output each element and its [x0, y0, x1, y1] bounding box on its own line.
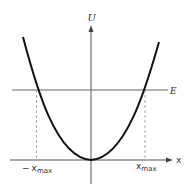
x-axis-arrow-icon	[166, 158, 173, 163]
energy-level-label: E	[169, 86, 177, 96]
right-turning-point-label: xmax	[136, 161, 157, 173]
left-turning-point-label: −xmax	[22, 163, 52, 175]
y-axis-arrow-icon	[89, 25, 94, 32]
y-axis-label: U	[88, 12, 97, 23]
potential-well-diagram: U x E −xmax xmax	[0, 0, 190, 191]
x-axis-label: x	[176, 155, 182, 165]
